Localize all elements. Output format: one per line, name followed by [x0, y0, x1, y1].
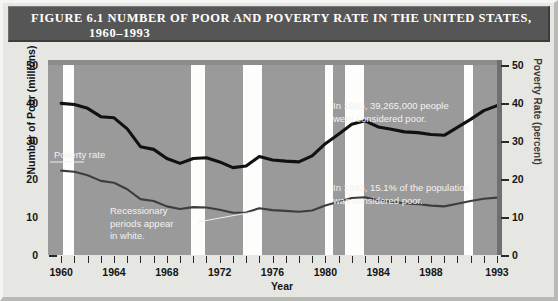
x-axis-tick [378, 256, 379, 263]
annotation-poverty-rate-line-1: In 1993, 15.1% of the population [333, 182, 470, 195]
recession-leader-line [198, 212, 253, 222]
x-axis-tick [180, 256, 181, 263]
x-axis-tick [471, 256, 472, 263]
annotation-number-of-poor-line-1: In 1993, 39,265,000 people [333, 100, 449, 113]
y-axis-tick-label-right: 50 [512, 59, 534, 71]
y-axis-tick-right [501, 255, 509, 257]
annotation-recession-line-2: periods appear [110, 218, 173, 231]
x-axis-tick [312, 256, 313, 263]
figure-title-bar: FIGURE 6.1 NUMBER OF POOR AND POVERTY RA… [8, 6, 550, 42]
x-axis-tick [167, 256, 168, 263]
x-axis-tick [61, 256, 62, 263]
x-axis-tick [259, 256, 260, 263]
y-axis-tick-label-right: 20 [512, 173, 534, 185]
figure-title-line-1: FIGURE 6.1 NUMBER OF POOR AND POVERTY RA… [31, 11, 548, 26]
x-axis-tick [365, 256, 366, 263]
annotation-number-of-poor-line-2: were considered poor. [333, 113, 449, 126]
poverty-rate-series-label: Poverty rate [54, 149, 105, 160]
x-axis-tick-label: 1976 [253, 266, 293, 278]
y-axis-tick-label-left: 20 [12, 173, 38, 185]
annotation-number-of-poor: In 1993, 39,265,000 people were consider… [333, 100, 449, 125]
x-axis-tick [405, 256, 406, 263]
plot-right-bevel [497, 60, 502, 255]
x-axis-tick [206, 256, 207, 263]
plot-region: Poverty rate In 1993, 39,265,000 people … [48, 65, 497, 255]
y-axis-tick-right [501, 179, 509, 181]
y-axis-tick-label-right: 40 [512, 97, 534, 109]
x-axis-tick-label: 1972 [200, 266, 240, 278]
x-axis-tick [273, 256, 274, 263]
x-axis-tick-label: 1993 [477, 266, 517, 278]
x-axis-tick [114, 256, 115, 263]
y-axis-tick-label-right: 0 [512, 249, 534, 261]
x-axis-tick [444, 256, 445, 263]
annotation-recession-line-1: Recessionary [110, 205, 173, 218]
x-axis-tick [127, 256, 128, 263]
figure-6-1: FIGURE 6.1 NUMBER OF POOR AND POVERTY RA… [0, 0, 558, 301]
annotation-recession-line-3: in white. [110, 230, 173, 243]
y-axis-tick-right [501, 65, 509, 67]
x-axis-tick [418, 256, 419, 263]
x-axis-tick [497, 256, 498, 263]
x-axis-tick-label: 1984 [358, 266, 398, 278]
x-axis-tick-label: 1964 [94, 266, 134, 278]
x-axis-tick [339, 256, 340, 263]
x-axis-tick [154, 256, 155, 263]
x-axis-tick [286, 256, 287, 263]
chart-area: Number of Poor (millions) Poverty Rate (… [0, 46, 558, 301]
y-axis-tick-left [49, 255, 57, 257]
x-axis-title: Year [252, 280, 312, 292]
y-axis-tick-right [501, 217, 509, 219]
x-axis-tick [101, 256, 102, 263]
x-axis-tick [246, 256, 247, 263]
y-axis-tick-label-left: 10 [12, 211, 38, 223]
x-axis-tick [391, 256, 392, 263]
x-axis-tick [193, 256, 194, 263]
x-axis-tick [220, 256, 221, 263]
x-axis-tick [431, 256, 432, 263]
x-axis-tick-label: 1960 [41, 266, 81, 278]
y-axis-tick-label-left: 50 [12, 59, 38, 71]
x-axis-tick [299, 256, 300, 263]
x-axis-tick [325, 256, 326, 263]
x-axis-tick [74, 256, 75, 263]
y-axis-tick-label-right: 10 [512, 211, 534, 223]
x-axis-tick [457, 256, 458, 263]
y-axis-tick-label-right: 30 [512, 135, 534, 147]
y-axis-title-left: Number of Poor (millions) [25, 35, 37, 185]
x-axis-tick [352, 256, 353, 263]
y-axis-tick-label-left: 0 [12, 249, 38, 261]
annotation-poverty-rate: In 1993, 15.1% of the population was con… [333, 182, 470, 207]
y-axis-tick-label-left: 40 [12, 97, 38, 109]
x-axis-tick [233, 256, 234, 263]
x-axis-tick-label: 1968 [147, 266, 187, 278]
annotation-recession: Recessionary periods appear in white. [110, 205, 173, 243]
x-axis-tick [484, 256, 485, 263]
y-axis-tick-label-left: 30 [12, 135, 38, 147]
x-axis-tick-label: 1988 [411, 266, 451, 278]
annotation-poverty-rate-line-2: was considered poor. [333, 195, 470, 208]
x-axis-tick-label: 1980 [305, 266, 345, 278]
x-axis-tick [140, 256, 141, 263]
figure-title-line-2: 1960–1993 [31, 26, 548, 41]
y-axis-tick-right [501, 141, 509, 143]
y-axis-tick-right [501, 103, 509, 105]
x-axis-tick [88, 256, 89, 263]
